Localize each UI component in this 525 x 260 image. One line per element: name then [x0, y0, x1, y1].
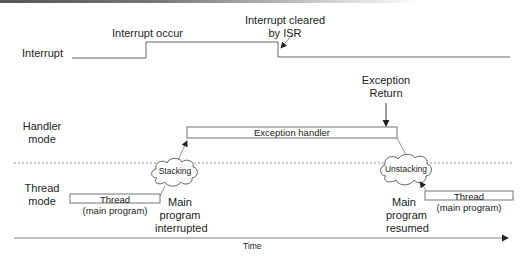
- annotation-main-interrupted-line2: program: [155, 209, 205, 222]
- annotation-main-resumed-line1: Main: [386, 196, 422, 209]
- row-label-thread-line2: mode: [24, 195, 60, 208]
- handler-to-unstacking-line: [397, 138, 406, 155]
- stacking-label: Stacking: [154, 166, 196, 177]
- row-label-thread-line1: Thread: [24, 182, 60, 195]
- interrupt-signal-line: [72, 42, 510, 58]
- row-label-handler-line1: Handler: [22, 120, 62, 133]
- stacking-to-handler-arrow-icon: [178, 141, 187, 160]
- annotation-exception-return-line1: Exception: [358, 74, 414, 87]
- annotation-exception-return-line2: Return: [358, 87, 414, 100]
- annotation-main-resumed-line3: resumed: [386, 222, 422, 235]
- annotation-interrupt-cleared-line1: Interrupt cleared: [243, 14, 327, 27]
- annotation-main-interrupted-line1: Main: [155, 196, 205, 209]
- row-label-handler-mode: Handler mode: [22, 120, 62, 146]
- time-axis-label: Time: [243, 241, 262, 252]
- annotation-interrupt-cleared-line2: by ISR: [243, 27, 327, 40]
- annotation-main-resumed-line2: program: [386, 209, 422, 222]
- row-label-handler-line2: mode: [22, 133, 62, 146]
- thread-right-sublabel: (main program): [425, 201, 513, 214]
- unstacking-to-thread-arrow-icon: [420, 182, 426, 190]
- row-label-thread-mode: Thread mode: [24, 182, 60, 208]
- thread-to-stacking-line: [160, 186, 165, 196]
- exception-handler-label: Exception handler: [187, 126, 397, 139]
- annotation-interrupt-occur: Interrupt occur: [112, 27, 183, 40]
- annotation-interrupt-cleared: Interrupt cleared by ISR: [243, 14, 327, 40]
- row-label-interrupt: Interrupt: [22, 47, 63, 60]
- unstacking-label: Unstacking: [381, 164, 431, 175]
- annotation-main-interrupted-line3: interrupted: [155, 222, 205, 235]
- annotation-main-interrupted: Main program interrupted: [155, 196, 205, 235]
- annotation-exception-return: Exception Return: [358, 74, 414, 100]
- annotation-main-resumed: Main program resumed: [386, 196, 422, 235]
- thread-left-sublabel: (main program): [70, 204, 160, 217]
